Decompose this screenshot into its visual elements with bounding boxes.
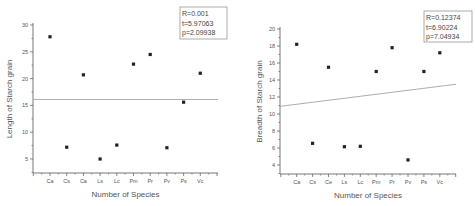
y-tick-label: 20	[22, 76, 28, 82]
data-point	[115, 143, 118, 146]
data-point	[391, 46, 394, 49]
y-axis-title: Length of Starch grain	[5, 60, 14, 139]
x-tick-label: Pv	[405, 179, 412, 185]
y-tick-label: 4	[272, 162, 275, 168]
stats-text: R=0.001	[182, 10, 209, 17]
x-tick-label: Ls	[341, 179, 347, 185]
y-tick-label: 16	[269, 60, 275, 66]
data-point	[343, 145, 346, 148]
x-tick-label: Pm	[372, 179, 381, 185]
data-point	[375, 70, 378, 73]
stats-text: t=5.97063	[182, 20, 213, 27]
data-point	[65, 146, 68, 149]
x-tick-label: Lc	[357, 179, 363, 185]
data-point	[182, 101, 185, 104]
x-axis-title: Number of Species	[334, 191, 402, 200]
x-tick-label: Pv	[164, 178, 171, 184]
x-tick-label: Ca	[80, 178, 88, 184]
data-point	[149, 53, 152, 56]
x-tick-label: Ce	[325, 179, 332, 185]
data-point	[99, 157, 102, 160]
y-tick-label: 10	[22, 129, 28, 135]
x-tick-label: Lc	[114, 178, 120, 184]
x-tick-label: Vc	[197, 178, 204, 184]
scatter-chart-2: 468101214161820CaCsCeLsLcPmPrPvPsVcNumbe…	[255, 11, 472, 200]
y-axis-title: Breadth of Starch grain	[255, 60, 264, 142]
data-point	[327, 66, 330, 69]
x-tick-label: Pm	[129, 178, 138, 184]
fit-line	[280, 84, 456, 106]
x-tick-label: Ls	[97, 178, 103, 184]
data-point	[165, 146, 168, 149]
stats-text: p=2.09938	[182, 29, 215, 37]
y-tick-label: 10	[269, 111, 275, 117]
x-tick-label: Pr	[389, 179, 395, 185]
y-tick-label: 8	[272, 128, 275, 134]
data-point	[422, 70, 425, 73]
x-axis-title: Number of Species	[91, 190, 159, 199]
data-point	[438, 51, 441, 54]
x-tick-label: Vc	[437, 179, 444, 185]
y-tick-label: 25	[22, 49, 28, 55]
data-point	[132, 63, 135, 66]
x-tick-label: Ca	[46, 178, 54, 184]
scatter-chart-1: 51015202530CaCsCaLsLcPmPrPvPsVcNumber of…	[5, 7, 227, 199]
y-tick-label: 12	[269, 94, 275, 100]
x-tick-label: Cs	[309, 179, 316, 185]
stats-text: R=0.12374	[426, 14, 461, 21]
y-tick-label: 18	[269, 43, 275, 49]
y-tick-label: 15	[22, 102, 28, 108]
stats-text: p=7.04934	[426, 33, 459, 41]
y-tick-label: 14	[269, 77, 275, 83]
stats-text: t=6.90224	[426, 24, 457, 31]
x-tick-label: Ps	[180, 178, 187, 184]
data-point	[406, 158, 409, 161]
y-tick-label: 5	[25, 156, 28, 162]
data-point	[82, 73, 85, 76]
x-tick-label: Cs	[63, 178, 70, 184]
data-point	[48, 35, 51, 38]
data-point	[311, 142, 314, 145]
y-tick-label: 20	[269, 26, 275, 32]
charts-canvas: 51015202530CaCsCaLsLcPmPrPvPsVcNumber of…	[0, 0, 475, 206]
y-tick-label: 6	[272, 145, 275, 151]
y-tick-label: 30	[22, 22, 28, 28]
data-point	[199, 72, 202, 75]
x-tick-label: Ps	[421, 179, 428, 185]
x-tick-label: Pr	[147, 178, 153, 184]
data-point	[295, 43, 298, 46]
x-tick-label: Ca	[293, 179, 301, 185]
data-point	[359, 145, 362, 148]
